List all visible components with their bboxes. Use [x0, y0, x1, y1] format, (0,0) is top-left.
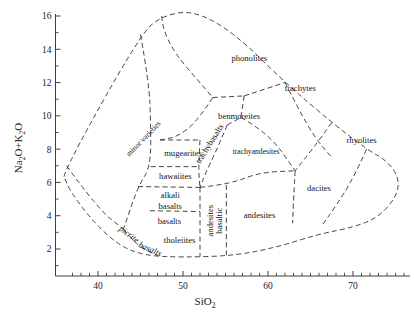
field-label-benmoreites: benmoreites	[218, 111, 261, 121]
y-title-part-4: O	[12, 123, 24, 131]
x-tick-label-60: 60	[263, 281, 273, 291]
divider-phonolites-trachytes	[244, 83, 285, 96]
divider-hawaiites-bottom	[138, 187, 200, 188]
divider-minor-varieties-left	[67, 166, 124, 229]
divider-trachytes-rhyolites	[295, 123, 332, 171]
divider-trachytes-right	[285, 83, 332, 158]
field-label-alkali-basalts-line2: basalts	[159, 201, 183, 211]
divider-dacites-andesites	[293, 171, 296, 223]
y-title-part-0: Na	[12, 160, 24, 173]
y-tick-label-2: 2	[47, 244, 52, 254]
y-axis-title: Na2O+K2O	[12, 123, 27, 173]
x-title-main: SiO	[195, 295, 212, 307]
y-tick-label-8: 8	[47, 145, 52, 155]
field-label-trachybasalts: trachybasalts	[193, 121, 226, 165]
tas-chart-svg: 246810121416 40506070 Na2O+K2O SiO2 phon…	[0, 0, 414, 323]
field-label-phonolites: phonolites	[231, 53, 267, 63]
y-title-part-2: O+K	[12, 134, 24, 156]
y-tick-label-14: 14	[42, 45, 52, 55]
svg-text:SiO2: SiO2	[195, 295, 216, 310]
y-tick-label-16: 16	[42, 11, 52, 21]
x-axis-title: SiO2	[195, 295, 216, 310]
field-label-dacites: dacites	[307, 183, 332, 193]
x-axis-tick-labels: 40506070	[93, 281, 358, 291]
field-label-hawaiites: hawaiites	[159, 171, 192, 181]
svg-text:Na2O+K2O: Na2O+K2O	[12, 123, 27, 173]
x-tick-label-50: 50	[178, 281, 188, 291]
divider-trachyandesites-right	[241, 118, 295, 171]
divider-benmoreites-left	[160, 98, 213, 140]
x-title-sub: 2	[212, 301, 216, 310]
divider-phonolites-left	[162, 16, 213, 98]
field-label-trachytes: trachytes	[285, 83, 317, 93]
y-tick-label-10: 10	[42, 111, 52, 121]
y-axis-tick-labels: 246810121416	[42, 11, 52, 254]
y-tick-label-4: 4	[47, 211, 52, 221]
y-tick-label-6: 6	[47, 178, 52, 188]
field-label-basalts: basalts	[158, 216, 182, 226]
divider-alkali-basalts-bottom	[150, 211, 200, 212]
x-tick-label-40: 40	[93, 281, 103, 291]
divider-trachyandesites-bottom	[200, 171, 295, 188]
field-label-mugearites: mugearites	[164, 148, 202, 158]
y-axis-ticks	[56, 16, 61, 266]
field-label-trachyandesites: trachyandesites	[233, 147, 280, 156]
field-labels: phonolitestrachytesrhyolitesbenmoreitest…	[116, 53, 377, 258]
field-label-basaltic-andesites-line1: basaltic	[214, 207, 224, 233]
field-label-minor-varieties: minor varieties	[124, 119, 162, 158]
divider-phonolites-bottom	[213, 96, 244, 98]
x-axis-ticks	[73, 271, 405, 276]
y-tick-label-12: 12	[42, 78, 52, 88]
field-label-andesites: andesites	[244, 210, 276, 220]
field-label-rhyolites: rhyolites	[346, 135, 377, 145]
field-label-alkali-basalts-line1: alkali	[161, 190, 181, 200]
field-label-picrite-basalts-line1: picrite	[116, 223, 141, 245]
tas-diagram: 246810121416 40506070 Na2O+K2O SiO2 phon…	[0, 0, 414, 323]
x-tick-label-70: 70	[348, 281, 358, 291]
field-label-basaltic-andesites-line2: andesites	[205, 204, 215, 236]
field-label-tholeiites: tholeiites	[164, 235, 196, 245]
